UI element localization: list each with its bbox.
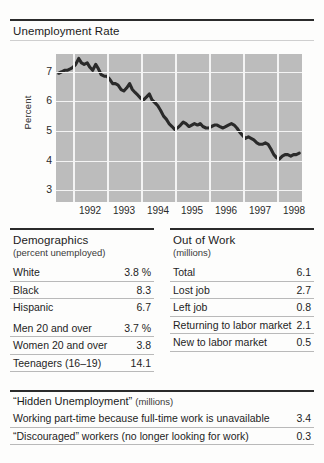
chart-gridline-v	[209, 54, 211, 202]
row-label: Lost job	[170, 281, 296, 299]
row-value: 0.8	[296, 299, 314, 317]
chart-gridline-v	[175, 54, 177, 202]
row-label: New to labor market	[170, 334, 296, 352]
page-title: Unemployment Rate	[10, 21, 314, 38]
chart-gridline-v	[73, 54, 75, 202]
demographics-panel: Demographics (percent unemployed) White3…	[10, 228, 154, 372]
unemployment-line-svg	[56, 54, 302, 202]
hidden-unemployment-title-row: “Hidden Unemployment” (millions)	[10, 392, 314, 410]
row-label: Black	[10, 281, 120, 299]
unemployment-rate-line	[59, 58, 300, 159]
infographic-page: Unemployment Rate Percent 76543 19921993…	[0, 0, 324, 463]
row-value: 2.7	[296, 281, 314, 299]
chart-y-tick-5: 5	[14, 124, 52, 136]
row-label: Women 20 and over	[10, 337, 120, 355]
table-row: Black8.3	[10, 281, 154, 299]
out-of-work-panel: Out of Work (millions) Total6.1Lost job2…	[170, 228, 314, 352]
chart-gridline-v	[107, 54, 109, 202]
row-label: Total	[170, 264, 296, 281]
row-value: 3.4	[295, 410, 314, 427]
chart-plot-area	[56, 54, 302, 202]
row-value: 6.7	[120, 299, 154, 320]
demographics-subtitle: (percent unemployed)	[10, 247, 154, 259]
row-value: 14.1	[120, 354, 154, 372]
table-row: “Discouraged” workers (no longer looking…	[10, 427, 314, 445]
table-row: Total6.1	[170, 264, 314, 281]
demographics-title: Demographics	[10, 230, 154, 247]
table-row: Returning to labor market2.1	[170, 316, 314, 334]
table-row: New to labor market0.5	[170, 334, 314, 352]
chart-gridline-h	[56, 131, 302, 132]
chart-x-tick-1994: 1994	[141, 205, 175, 216]
hidden-unemployment-table: Working part-time because full-time work…	[10, 410, 314, 445]
chart-x-tick-1998: 1998	[277, 205, 311, 216]
chart-x-tick-1993: 1993	[107, 205, 141, 216]
row-value: 6.1	[296, 264, 314, 281]
chart-area: Percent 76543 19921993199419951996199719…	[10, 45, 314, 225]
table-row: Men 20 and over3.7 %	[10, 320, 154, 337]
chart-gridline-v	[141, 54, 143, 202]
chart-title-row: Unemployment Rate	[10, 21, 314, 41]
row-label: Teenagers (16–19)	[10, 354, 120, 372]
chart-gridline-v	[277, 54, 279, 202]
table-row: White3.8 %	[10, 264, 154, 281]
chart-y-tick-3: 3	[14, 183, 52, 195]
chart-gridline-h	[56, 72, 302, 73]
row-value: 3.8 %	[120, 264, 154, 281]
chart-gridline-h	[56, 161, 302, 162]
demographics-table: White3.8 %Black8.3Hispanic6.7Men 20 and …	[10, 264, 154, 372]
row-label: “Discouraged” workers (no longer looking…	[10, 427, 295, 445]
row-value: 2.1	[296, 316, 314, 334]
row-value: 3.7 %	[120, 320, 154, 337]
unemployment-rate-chart-panel: Unemployment Rate Percent 76543 19921993…	[10, 19, 314, 225]
row-label: Men 20 and over	[10, 320, 120, 337]
hidden-unemployment-panel: “Hidden Unemployment” (millions) Working…	[10, 390, 314, 445]
chart-x-tick-1992: 1992	[73, 205, 107, 216]
chart-y-tick-labels: 76543	[10, 54, 52, 202]
chart-x-tick-labels: 1992199319941995199619971998	[56, 205, 302, 221]
chart-y-tick-6: 6	[14, 94, 52, 106]
chart-y-tick-7: 7	[14, 65, 52, 77]
chart-y-tick-4: 4	[14, 154, 52, 166]
out-of-work-table: Total6.1Lost job2.7Left job0.8Returning …	[170, 264, 314, 352]
table-row: Lost job2.7	[170, 281, 314, 299]
row-value: 8.3	[120, 281, 154, 299]
chart-gridline-h	[56, 190, 302, 191]
row-value: 0.3	[295, 427, 314, 445]
hidden-unemployment-units: (millions)	[135, 396, 173, 407]
row-label: Working part-time because full-time work…	[10, 410, 295, 427]
table-row: Teenagers (16–19)14.1	[10, 354, 154, 372]
row-label: Left job	[170, 299, 296, 317]
chart-x-tick-1996: 1996	[209, 205, 243, 216]
chart-gridline-v	[243, 54, 245, 202]
chart-x-tick-1995: 1995	[175, 205, 209, 216]
table-row: Women 20 and over3.8	[10, 337, 154, 355]
row-value: 0.5	[296, 334, 314, 352]
row-label: Hispanic	[10, 299, 120, 320]
hidden-unemployment-title: “Hidden Unemployment”	[13, 395, 132, 407]
out-of-work-subtitle: (millions)	[170, 247, 314, 259]
table-row: Left job0.8	[170, 299, 314, 317]
out-of-work-title: Out of Work	[170, 230, 314, 247]
table-row: Hispanic6.7	[10, 299, 154, 320]
row-label: White	[10, 264, 120, 281]
chart-x-tick-1997: 1997	[243, 205, 277, 216]
table-row: Working part-time because full-time work…	[10, 410, 314, 427]
row-label: Returning to labor market	[170, 316, 296, 334]
chart-gridline-h	[56, 101, 302, 102]
row-value: 3.8	[120, 337, 154, 355]
